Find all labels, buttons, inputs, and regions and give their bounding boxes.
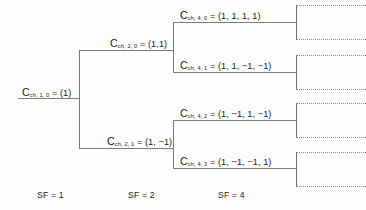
sf-caption-4: SF = 4 <box>218 190 245 200</box>
code-subscript-level2-1: ch, 2, 1 <box>115 141 135 147</box>
branch-line-level4-3 <box>173 168 297 169</box>
branch-line-level4-1 <box>173 72 297 73</box>
code-symbol-level4-3: C <box>180 155 188 167</box>
sf-caption-1: SF = 1 <box>37 190 64 200</box>
code-value-level4-0: = (1, 1, 1, 1) <box>210 11 261 21</box>
code-label-root: Cch, 1, 0 = (1) <box>22 87 71 99</box>
code-subscript-level4-0: ch, 4, 0 <box>188 15 208 21</box>
code-label-level4-3: Cch, 4, 3 = (1, −1, −1, 1) <box>180 156 271 168</box>
code-value-level4-1: = (1, 1, −1, −1) <box>210 61 272 71</box>
code-label-level4-1: Cch, 4, 1 = (1, 1, −1, −1) <box>180 60 271 72</box>
code-subscript-root: ch, 1, 0 <box>30 92 50 98</box>
code-label-level4-2: Cch, 4, 2 = (1, −1, 1, −1) <box>180 108 271 120</box>
branch-line-level4-2 <box>173 120 297 121</box>
splitter-level2-1 <box>173 120 174 168</box>
sf-caption-2: SF = 2 <box>128 190 155 200</box>
continuation-box-3 <box>296 152 366 187</box>
branch-line-level4-0 <box>173 22 297 23</box>
continuation-box-0 <box>296 5 366 40</box>
code-value-root: = (1) <box>52 88 71 98</box>
code-label-level4-0: Cch, 4, 0 = (1, 1, 1, 1) <box>180 10 261 22</box>
branch-line-level2-0 <box>79 50 173 51</box>
code-subscript-level4-3: ch, 4, 3 <box>188 161 208 167</box>
code-symbol-level2-1: C <box>107 135 115 147</box>
splitter-level1 <box>79 50 80 148</box>
code-value-level4-3: = (1, −1, −1, 1) <box>210 157 272 167</box>
code-symbol-level4-1: C <box>180 59 188 71</box>
code-value-level2-1: = (1, −1) <box>137 137 172 147</box>
code-symbol-root: C <box>22 86 30 98</box>
splitter-level2-0 <box>173 22 174 72</box>
code-value-level2-0: = (1,1) <box>140 39 167 49</box>
branch-line-level2-1 <box>79 148 173 149</box>
code-symbol-level4-2: C <box>180 107 188 119</box>
code-label-level2-1: Cch, 2, 1 = (1, −1) <box>107 136 172 148</box>
code-subscript-level4-2: ch, 4, 2 <box>188 113 208 119</box>
code-symbol-level2-0: C <box>110 37 118 49</box>
code-subscript-level4-1: ch, 4, 1 <box>188 65 208 71</box>
continuation-box-1 <box>296 55 366 90</box>
continuation-box-2 <box>296 103 366 138</box>
code-subscript-level2-0: ch, 2, 0 <box>118 43 138 49</box>
code-symbol-level4-0: C <box>180 9 188 21</box>
code-value-level4-2: = (1, −1, 1, −1) <box>210 109 272 119</box>
code-label-level2-0: Cch, 2, 0 = (1,1) <box>110 38 167 50</box>
